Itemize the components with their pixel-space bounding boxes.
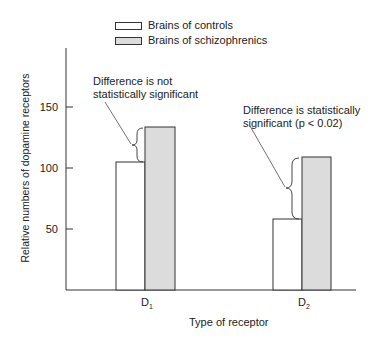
annotation-d2: Difference is statistically significant … [243,104,360,130]
annotation-d2-line1: Difference is statistically [243,104,360,117]
xcat-d2-base: D [298,296,306,308]
leader-line-d1 [105,102,131,144]
xcat-d2-sub: 2 [306,303,310,310]
x-axis-label: Type of receptor [189,316,269,328]
ytick-label-150: 150 [34,101,58,113]
bar-d2-schizophrenics [302,157,331,290]
xcat-d1-base: D [141,296,149,308]
annotation-d2-line2: significant (p < 0.02) [243,117,360,130]
brace-d1 [132,128,143,162]
brace-d2 [286,158,299,219]
y-axis-label: Relative numbers of dopamine receptors [19,68,31,268]
bar-d1-schizophrenics [145,127,175,290]
bar-d2-controls [273,219,302,290]
xcat-d1: D1 [141,296,153,310]
bar-d1-controls [116,162,145,290]
xcat-d1-sub: 1 [149,303,153,310]
xcat-d2: D2 [298,296,310,310]
annotation-d1-line2: statistically significant [93,88,198,101]
annotation-d1-line1: Difference is not [93,75,198,88]
annotation-d1: Difference is not statistically signific… [93,75,198,101]
leader-line-d2 [250,126,285,187]
ytick-label-100: 100 [34,162,58,174]
ytick-label-50: 50 [34,223,58,235]
